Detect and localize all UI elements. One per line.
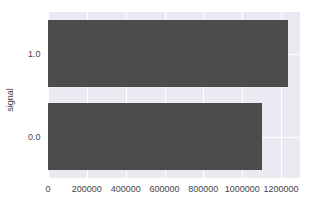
bar-0.0: [48, 103, 262, 169]
x-tick-label: 1200000: [263, 184, 298, 194]
x-tick-label: 400000: [111, 184, 141, 194]
bar-1.0: [48, 20, 288, 86]
x-tick-label: 0: [45, 184, 50, 194]
x-tick-label: 200000: [72, 184, 102, 194]
y-tick-label: 1.0: [28, 49, 41, 59]
x-tick-label: 1000000: [225, 184, 260, 194]
plot-area: [48, 12, 300, 178]
x-tick-label: 600000: [149, 184, 179, 194]
y-axis-label: signal: [5, 80, 15, 120]
x-tick-label: 800000: [188, 184, 218, 194]
y-tick-label: 0.0: [28, 132, 41, 142]
